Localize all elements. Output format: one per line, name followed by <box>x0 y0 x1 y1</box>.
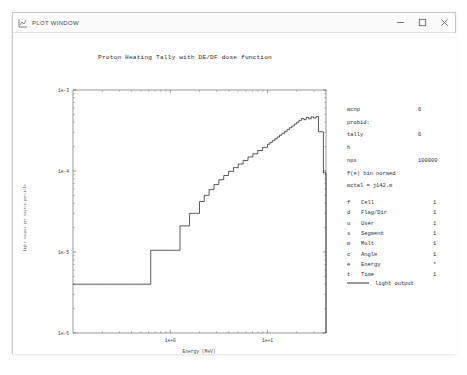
x-axis-minor-ticks <box>102 90 326 333</box>
bin-value: * <box>433 262 436 268</box>
bin-key: d <box>347 210 350 216</box>
y-tick-label: 1e-4 <box>58 169 69 174</box>
window-titlebar[interactable]: PLOT WINDOW <box>13 13 455 33</box>
info-line-label: nps <box>347 158 357 164</box>
bin-name: Mult <box>361 241 374 247</box>
x-axis-ticks: 1e+01e+1 <box>165 90 274 343</box>
info-line-label: mcnp <box>347 107 360 113</box>
desktop-background: PLOT WINDOW <box>0 0 467 375</box>
bin-key: s <box>347 231 350 237</box>
info-line-label: probid: <box>347 120 370 126</box>
bin-value: 1 <box>433 221 436 227</box>
bin-value: 1 <box>433 272 436 278</box>
y-tick-label: 1e-6 <box>58 331 69 336</box>
x-axis-label: Energy (MeV) <box>182 349 215 354</box>
bin-key: t <box>347 272 350 278</box>
bin-key: c <box>347 252 350 258</box>
bin-value: 1 <box>433 231 436 237</box>
bin-key: f <box>347 200 350 206</box>
bin-key: u <box>347 221 350 227</box>
window-controls <box>389 13 455 32</box>
bin-key: m <box>347 241 350 247</box>
info-line-value: 6 <box>418 132 421 138</box>
bin-name: Flag/Dir <box>361 210 387 216</box>
chart-title: Proton Heating Tally with DE/DF dose fun… <box>98 54 272 61</box>
info-line-label: h <box>347 145 350 151</box>
legend: light output <box>347 281 414 287</box>
y-tick-label: 1e-3 <box>58 88 69 93</box>
bin-name: Energy <box>361 262 381 268</box>
y-axis-ticks: 1e-31e-41e-51e-6 <box>58 88 326 336</box>
x-tick-label: 1e+0 <box>165 338 176 343</box>
info-line-label: tally <box>347 132 364 138</box>
bin-value: 1 <box>433 241 436 247</box>
y-axis-label: light output per source particle <box>23 184 27 252</box>
mcnp-plot: Proton Heating Tally with DE/DF dose fun… <box>13 33 457 354</box>
bin-name: Time <box>361 272 374 278</box>
data-series-light-output <box>73 117 326 333</box>
bin-value: 1 <box>433 200 436 206</box>
info-line-label: mctal = j142.m <box>347 183 392 189</box>
y-tick-label: 1e-5 <box>58 250 69 255</box>
legend-label: light output <box>375 281 414 287</box>
bin-name: Cell <box>361 200 374 206</box>
close-icon[interactable] <box>433 13 455 33</box>
bin-name: Segment <box>361 231 384 237</box>
bin-name: Angle <box>361 252 377 258</box>
plot-canvas: Proton Heating Tally with DE/DF dose fun… <box>13 33 457 354</box>
bin-value: 1 <box>433 252 436 258</box>
window-title: PLOT WINDOW <box>32 20 79 26</box>
maximize-icon[interactable] <box>411 13 433 33</box>
info-line-label: f(e) bin normed <box>347 171 396 177</box>
bin-key: e <box>347 262 350 268</box>
bin-name: User <box>361 221 374 227</box>
bin-value: 1 <box>433 210 436 216</box>
plot-window-icon <box>18 18 28 28</box>
x-tick-label: 1e+1 <box>262 338 273 343</box>
info-panel-lines: mcnp6probid:tally6hnps100000f(e) bin nor… <box>347 107 437 189</box>
info-panel-bin-table: fCell1dFlag/Dir1uUser1sSegment1mMult1cAn… <box>347 200 436 278</box>
plot-window: PLOT WINDOW <box>12 12 456 354</box>
minimize-icon[interactable] <box>389 13 411 33</box>
info-line-value: 6 <box>418 107 421 113</box>
info-line-value: 100000 <box>418 158 437 164</box>
y-axis-minor-ticks <box>73 94 326 309</box>
